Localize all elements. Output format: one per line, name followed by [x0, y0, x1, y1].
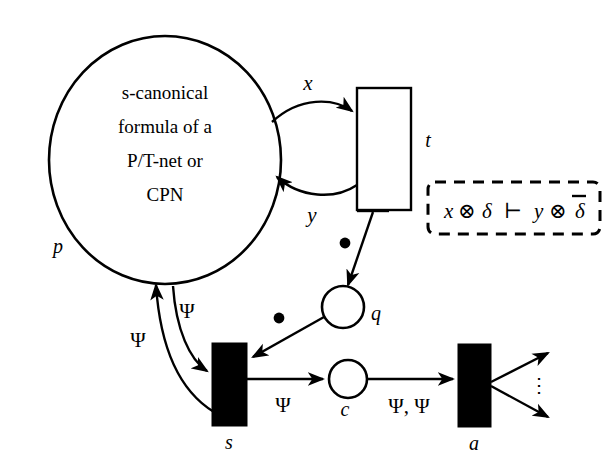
place-q-circle	[322, 286, 364, 328]
arc-t-to-q-bullet	[340, 238, 351, 249]
arc-s-to-c-label: Ψ	[275, 393, 291, 417]
place-p-text-line-3: P/T-net or	[127, 150, 203, 171]
vertical-ellipsis: ⋮	[529, 374, 549, 396]
arc-t-to-p-path	[277, 177, 357, 195]
arc-s-to-p-label: Ψ	[130, 328, 146, 352]
arc-p-to-t-path	[272, 102, 352, 122]
transition-a-rect	[458, 344, 491, 427]
arc-s-to-p[interactable]: Ψ	[130, 285, 214, 412]
transition-a[interactable]: a	[458, 344, 491, 454]
transition-s-rect	[212, 343, 247, 426]
arc-t-to-p-label: y	[305, 203, 317, 227]
transition-a-label: a	[469, 432, 479, 454]
place-q[interactable]: q	[322, 286, 381, 328]
arc-q-to-s-bullet	[274, 313, 285, 324]
arc-s-to-c[interactable]: Ψ	[247, 379, 323, 417]
turnstile-icon: ⊢	[504, 199, 522, 223]
place-p-text-line-1: s-canonical	[122, 82, 209, 103]
arc-p-to-s-label: Ψ	[179, 299, 195, 323]
formula-lhs-var: x	[443, 199, 454, 223]
formula-delta-1: δ	[482, 199, 493, 223]
transition-s[interactable]: s	[212, 343, 247, 453]
formula-rhs-var: y	[532, 199, 544, 223]
place-c[interactable]: c	[329, 360, 367, 420]
transition-s-label: s	[225, 431, 233, 453]
transition-t-rect	[357, 88, 411, 210]
tensor-icon-2: ⊗	[549, 199, 567, 223]
place-c-circle	[329, 360, 367, 398]
arc-p-to-s[interactable]: Ψ	[173, 286, 207, 371]
place-p-label: p	[51, 235, 63, 258]
place-p[interactable]: s-canonical formula of a P/T-net or CPN …	[49, 36, 281, 284]
petri-net-diagram: s-canonical formula of a P/T-net or CPN …	[0, 0, 607, 457]
arc-p-to-t[interactable]: x	[272, 71, 352, 122]
arc-p-to-t-label: x	[302, 71, 313, 95]
arc-q-to-s-path	[253, 317, 324, 357]
arc-q-to-s[interactable]	[253, 313, 324, 357]
place-c-label: c	[341, 398, 350, 420]
transition-t[interactable]: t	[357, 88, 431, 210]
place-q-label: q	[371, 302, 381, 325]
transition-formula-annotation[interactable]: x ⊗ δ ⊢ y ⊗ δ	[428, 182, 600, 234]
place-p-text-line-2: formula of a	[118, 116, 212, 137]
formula-delta-2: δ	[575, 199, 586, 223]
place-p-text-line-4: CPN	[147, 184, 184, 205]
transition-t-label: t	[425, 129, 431, 151]
arc-c-to-a[interactable]: Ψ, Ψ	[367, 379, 453, 418]
arc-t-to-q-path	[348, 212, 373, 285]
arc-t-to-q[interactable]	[340, 211, 389, 285]
arc-t-to-p[interactable]: y	[277, 177, 357, 227]
arc-c-to-a-label: Ψ, Ψ	[388, 394, 430, 418]
tensor-icon-1: ⊗	[458, 199, 476, 223]
petri-net-canvas: s-canonical formula of a P/T-net or CPN …	[0, 0, 607, 457]
